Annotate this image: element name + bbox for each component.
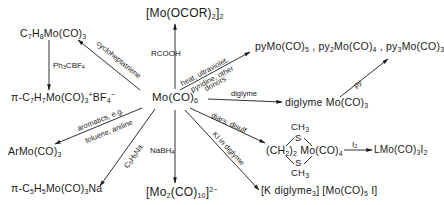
product-pyridine-complexes: pyMo(CO)5 , py2Mo(CO)4 , py3Mo(CO)3 (255, 41, 444, 52)
product-decacarbonyl-dianion: [Mo2(CO)10]2− (146, 186, 218, 198)
reagent-nabh4: NaBH4 (150, 147, 174, 155)
reagent-rcooh: RCOOH (151, 50, 181, 58)
arrow-py (340, 59, 388, 97)
ring-bond (304, 156, 312, 164)
center-compound: Mo(CO)6 (152, 92, 198, 104)
reagent-ph3cbf4: Ph3CBF4 (53, 62, 85, 70)
product-cyclopentadienyl-salt: π-C5H5Mo(CO)3Na (11, 183, 102, 194)
product-oxidized: LMo(CO)3I2 (374, 145, 428, 155)
product-diglyme-complex: diglyme Mo(CO)3 (285, 97, 368, 108)
ring-bond (286, 156, 294, 164)
product-iodide-salt: [K diglyme3] [Mo(CO)5 I] (261, 185, 377, 196)
dithioether-ch3-bottom: CH3 (291, 168, 309, 178)
dithioether-ch3-top: CH3 (291, 122, 309, 132)
product-carboxylate-dimer: [Mo(OCOR)2]2 (146, 7, 224, 19)
product-cycloheptatriene-complex: C7H8Mo(CO)3 (20, 28, 86, 39)
reagent-i2: I2 (352, 141, 357, 149)
product-tropylium-salt: π-C7H7Mo(CO)3+BF4− (11, 92, 115, 103)
arrow-diglyme (208, 99, 282, 102)
product-arene-complex: ArMo(CO)3 (8, 146, 62, 157)
dithioether-s-top: S (295, 133, 302, 143)
reagent-diglyme: diglyme (231, 90, 257, 98)
product-dithioether-complex: (CH2)2 Mo(CO)4 (266, 145, 343, 156)
